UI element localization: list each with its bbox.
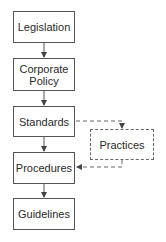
corporate-policy-box: Corporate Policy (13, 58, 75, 91)
corporate-policy-label-line1: Corporate (20, 63, 69, 75)
dashed-arrow-standards-to-practices (76, 121, 122, 128)
dashed-arrow-practices-to-procedures (77, 160, 122, 167)
guidelines-box: Guidelines (13, 198, 75, 230)
procedures-box: Procedures (13, 152, 75, 184)
practices-box: Practices (90, 129, 154, 160)
legislation-label: Legislation (18, 21, 71, 33)
standards-label: Standards (19, 116, 69, 128)
procedures-label: Procedures (16, 162, 72, 174)
practices-label: Practices (99, 139, 144, 151)
corporate-policy-label-line2: Policy (29, 75, 58, 87)
standards-box: Standards (13, 106, 75, 137)
guidelines-label: Guidelines (18, 208, 70, 220)
legislation-box: Legislation (13, 11, 75, 43)
